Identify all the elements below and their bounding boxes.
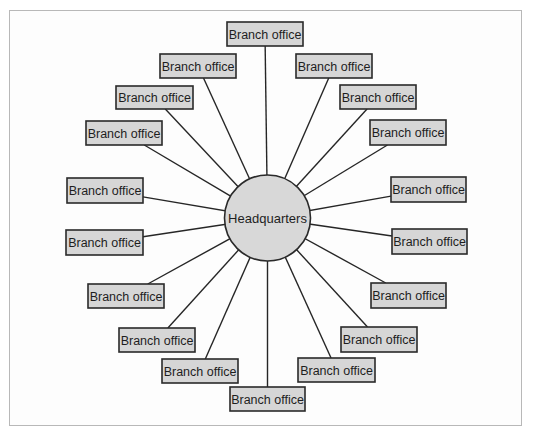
branch-office-label: Branch office: [372, 126, 445, 140]
branch-office-node: Branch office: [227, 22, 303, 46]
branch-office-label: Branch office: [88, 127, 161, 141]
branch-office-label: Branch office: [231, 393, 304, 407]
headquarters-node: Headquarters: [225, 175, 311, 261]
branch-office-label: Branch office: [118, 91, 191, 105]
branch-office-node: Branch office: [230, 387, 305, 411]
branch-office-node: Branch office: [391, 177, 466, 202]
branch-office-label: Branch office: [162, 60, 235, 74]
branch-office-label: Branch office: [393, 235, 466, 249]
branch-office-node: Branch office: [340, 85, 416, 109]
branch-office-label: Branch office: [121, 334, 194, 348]
branch-office-node: Branch office: [88, 284, 164, 308]
branch-office-node: Branch office: [66, 230, 143, 255]
branch-office-label: Branch office: [300, 364, 373, 378]
branch-office-label: Branch office: [342, 91, 415, 105]
branch-office-label: Branch office: [90, 290, 163, 304]
branch-office-node: Branch office: [162, 359, 238, 383]
branch-office-label: Branch office: [298, 60, 371, 74]
branch-office-node: Branch office: [86, 121, 162, 145]
branch-office-label: Branch office: [229, 28, 302, 42]
branch-office-node: Branch office: [67, 178, 143, 203]
branch-office-label: Branch office: [68, 236, 141, 250]
headquarters-label: Headquarters: [228, 211, 307, 226]
branch-office-node: Branch office: [119, 328, 195, 352]
branch-office-node: Branch office: [160, 54, 236, 78]
branch-office-node: Branch office: [371, 283, 446, 308]
hub-spoke-diagram: Branch officeBranch officeBranch officeB…: [0, 0, 533, 434]
branch-office-node: Branch office: [370, 120, 446, 145]
branch-office-label: Branch office: [69, 184, 142, 198]
branch-office-label: Branch office: [343, 333, 416, 347]
branch-office-label: Branch office: [164, 365, 237, 379]
branch-office-node: Branch office: [116, 86, 193, 109]
branch-office-node: Branch office: [296, 54, 372, 78]
branch-office-node: Branch office: [298, 358, 375, 382]
branch-office-node: Branch office: [341, 327, 417, 352]
branch-office-label: Branch office: [392, 183, 465, 197]
branch-office-label: Branch office: [372, 289, 445, 303]
branch-office-node: Branch office: [392, 229, 467, 254]
